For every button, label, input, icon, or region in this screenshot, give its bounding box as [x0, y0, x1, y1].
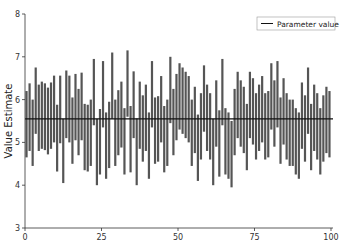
interval-bar: [111, 53, 113, 119]
interval-bar: [145, 85, 147, 151]
interval-bar: [200, 93, 202, 159]
interval-bar: [282, 78, 284, 144]
interval-bar: [59, 76, 61, 144]
interval-bar: [148, 112, 150, 178]
interval-bar: [105, 112, 107, 178]
interval-bar: [68, 76, 70, 143]
interval-bar: [87, 105, 89, 172]
interval-bar: [298, 112, 300, 178]
interval-bar: [160, 76, 162, 142]
interval-bar: [197, 115, 199, 181]
interval-bar: [230, 121, 232, 187]
interval-bar: [185, 72, 187, 138]
y-ticks: 345678: [15, 10, 25, 233]
interval-bar: [295, 108, 297, 174]
interval-bar: [322, 95, 324, 161]
interval-bar: [62, 119, 64, 183]
interval-bar: [178, 63, 180, 129]
interval-bar: [181, 68, 183, 134]
interval-bar: [301, 82, 303, 148]
interval-bar: [157, 96, 159, 161]
interval-bar: [279, 97, 281, 163]
interval-bar: [71, 97, 73, 163]
interval-bar: [191, 100, 193, 166]
interval-bar: [154, 97, 156, 163]
interval-bar: [188, 76, 190, 142]
interval-bar: [151, 61, 153, 127]
interval-bar: [218, 110, 220, 176]
interval-bar: [252, 78, 254, 144]
interval-bar: [56, 105, 58, 172]
interval-bar: [44, 83, 46, 150]
interval-bar: [28, 83, 30, 151]
interval-bar: [47, 88, 49, 155]
interval-bar: [310, 104, 312, 170]
interval-bar: [264, 93, 266, 159]
x-tick-label: 75: [249, 233, 259, 242]
interval-bar: [215, 80, 217, 146]
interval-bar: [117, 90, 119, 155]
interval-bar: [32, 100, 34, 166]
interval-bar: [304, 95, 306, 161]
interval-bar: [328, 91, 330, 157]
y-tick-label: 4: [15, 181, 20, 190]
y-tick-label: 6: [15, 96, 20, 105]
interval-bar: [240, 80, 242, 146]
interval-bar: [212, 119, 214, 185]
interval-bar: [261, 76, 263, 142]
interval-bar: [292, 100, 294, 166]
interval-bar: [243, 87, 245, 153]
x-tick-label: 0: [22, 233, 27, 242]
interval-bar: [114, 100, 116, 166]
interval-bar: [139, 82, 141, 149]
interval-bar: [227, 112, 229, 178]
y-tick-label: 5: [15, 138, 20, 147]
y-tick-label: 3: [15, 224, 20, 233]
x-tick-label: 25: [96, 233, 106, 242]
interval-bar: [286, 93, 288, 159]
interval-bar: [120, 82, 122, 148]
interval-bar: [249, 72, 251, 138]
interval-bar: [96, 119, 98, 185]
interval-bar: [289, 100, 291, 166]
interval-bar: [267, 91, 269, 157]
interval-bar: [194, 87, 196, 153]
interval-bar: [163, 106, 165, 172]
y-tick-label: 8: [15, 10, 20, 19]
interval-bar: [313, 85, 315, 151]
interval-bar: [77, 89, 79, 155]
interval-bar: [65, 71, 67, 139]
interval-bar: [81, 73, 83, 141]
legend-label: Parameter value: [277, 20, 339, 29]
interval-bar: [276, 61, 278, 127]
interval-bar: [172, 89, 174, 155]
interval-bar: [126, 50, 128, 116]
legend: Parameter value: [257, 17, 339, 30]
x-tick-label: 100: [323, 233, 338, 242]
interval-bar: [41, 82, 43, 149]
interval-bar: [237, 72, 239, 138]
interval-bar: [319, 108, 321, 174]
interval-bar: [209, 93, 211, 159]
y-axis-label: Value Estimate: [3, 84, 14, 159]
interval-bar: [74, 74, 76, 140]
interval-bar: [129, 106, 131, 172]
interval-bar: [142, 95, 144, 161]
interval-bar: [246, 104, 248, 170]
interval-bar: [234, 89, 236, 155]
interval-bar: [203, 65, 205, 131]
interval-bar: [169, 57, 171, 123]
interval-bar: [273, 80, 275, 146]
interval-bar: [123, 108, 125, 174]
x-tick-label: 50: [173, 233, 183, 242]
interval-bar: [53, 76, 55, 143]
interval-bar: [50, 82, 52, 148]
interval-bar: [255, 93, 257, 159]
y-tick-label: 7: [15, 53, 20, 62]
interval-bar: [133, 71, 135, 138]
interval-bar: [38, 85, 40, 151]
interval-bar: [90, 100, 92, 166]
interval-bar: [35, 68, 37, 134]
interval-bar: [206, 85, 208, 151]
interval-bar: [25, 91, 27, 157]
